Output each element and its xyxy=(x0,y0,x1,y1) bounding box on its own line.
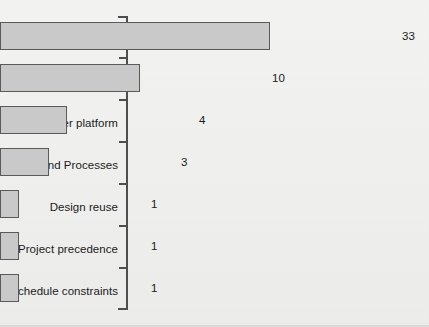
bar-design-reuse xyxy=(0,190,19,218)
bar-value-schedule-constraints: 1 xyxy=(151,282,158,294)
bar-value-product: 10 xyxy=(272,72,285,84)
axis-tick xyxy=(119,141,127,143)
axis-tick xyxy=(119,267,127,269)
axis-tick xyxy=(119,99,127,101)
bar-chart: People Product Computer platform Tools a… xyxy=(0,0,429,327)
category-label-schedule-constraints: Schedule constraints xyxy=(10,285,118,297)
axis-tick xyxy=(119,57,127,59)
category-label-design-reuse: Design reuse xyxy=(50,201,118,213)
category-label-project-precedence: Project precedence xyxy=(18,243,118,255)
axis-tick xyxy=(119,183,127,185)
axis-bottom-cap xyxy=(118,308,127,310)
category-axis-line xyxy=(126,16,128,310)
bar-schedule-constraints xyxy=(0,274,19,302)
bar-product xyxy=(0,64,140,92)
bar-value-computer-platform: 4 xyxy=(199,114,206,126)
bar-value-tools-and-processes: 3 xyxy=(181,156,188,168)
plot-area: People Product Computer platform Tools a… xyxy=(0,0,429,327)
bar-value-design-reuse: 1 xyxy=(151,198,158,210)
bar-people xyxy=(0,22,270,50)
bar-computer-platform xyxy=(0,106,67,134)
axis-tick xyxy=(119,225,127,227)
bar-tools-and-processes xyxy=(0,148,49,176)
bar-project-precedence xyxy=(0,232,19,260)
bar-value-people: 33 xyxy=(402,30,415,42)
bar-value-project-precedence: 1 xyxy=(151,240,158,252)
axis-top-cap xyxy=(118,16,127,18)
